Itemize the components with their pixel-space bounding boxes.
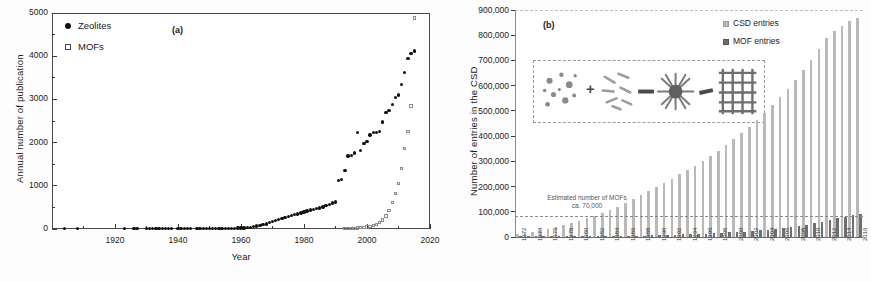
panel-b-bar-mof	[527, 236, 530, 237]
panel-a-y-tickmark	[52, 99, 57, 100]
panel-b-annotation: Estimated number of MOFs ca. 70,000	[527, 194, 647, 212]
panel-a-x-tickmark	[115, 224, 116, 229]
panel-b-bar-csd	[756, 120, 759, 237]
panel-a-legend-mofs: MOFs	[65, 41, 104, 52]
panel-a-mofs-point	[387, 209, 390, 212]
panel-a-legend-zeolites: Zeolites	[65, 20, 111, 31]
panel-b-bar-csd	[725, 145, 728, 237]
panel-b-bar-csd	[810, 60, 813, 237]
panel-b-x-tick-label: 2014	[846, 228, 852, 241]
panel-a-mofs-point	[397, 182, 400, 185]
metal-nodes-icon	[543, 73, 577, 107]
panel-b-y-tick-label: 200,000	[453, 182, 509, 192]
panel-a: Annual number of publication (a) Zeolite…	[0, 0, 440, 281]
panel-b-y-tick-label: 500,000	[453, 106, 509, 116]
panel-a-x-tickmark	[304, 224, 305, 229]
panel-a-mofs-point	[391, 201, 394, 204]
panel-b-bar-csd	[848, 21, 851, 237]
panel-a-zeolites-point	[189, 227, 192, 230]
panel-b-x-tick-label: 2016	[862, 228, 868, 241]
plus-sign-icon: +	[586, 82, 595, 98]
panel-a-mofs-point	[409, 104, 412, 107]
panel-b-bar-csd	[593, 216, 596, 237]
panel-a-x-tick-label: 1960	[223, 235, 259, 245]
panel-a-x-tick-label: 1980	[286, 235, 322, 245]
panel-a-legend-zeolites-label: Zeolites	[78, 20, 111, 31]
panel-b-bar-csd	[624, 203, 627, 237]
panel-b-estimated-mofs-line	[515, 216, 863, 217]
panel-b-x-tick-label: 1986	[630, 228, 636, 241]
mof-assembly-schematic-svg: +	[534, 61, 764, 122]
panel-a-mofs-point	[394, 192, 397, 195]
panel-b-legend-csd: CSD entries	[723, 18, 779, 28]
sbu-cluster-icon	[658, 74, 693, 109]
panel-a-zeolites-point	[63, 227, 66, 230]
panel-b-x-tick-label: 1984	[614, 228, 620, 241]
panel-b-bar-csd	[732, 139, 735, 237]
panel-a-mofs-point	[413, 16, 416, 19]
organic-linkers-icon	[603, 74, 632, 109]
panel-b-bar-csd	[771, 105, 774, 237]
panel-a-zeolites-point	[334, 200, 337, 203]
panel-b-annotation-line1: Estimated number of MOFs	[527, 194, 647, 203]
panel-a-zeolites-point	[135, 227, 138, 230]
mof-assembly-schematic-inset: +	[533, 60, 765, 123]
panel-b-bar-csd	[717, 151, 720, 238]
panel-b-bar-csd	[802, 70, 805, 237]
reaction-arrow-2-icon	[699, 89, 713, 96]
panel-b-bar-csd	[531, 232, 534, 237]
panel-a-y-tickmark	[52, 229, 57, 230]
panel-b-bar-csd	[856, 18, 859, 237]
panel-a-zeolites-point	[353, 151, 356, 154]
panel-b-bar-csd	[671, 179, 674, 238]
panel-b-x-tick-label: 2004	[769, 228, 775, 241]
panel-a-y-axis-label: Annual number of publication	[14, 54, 25, 183]
panel-a-x-tick-label: 2000	[349, 235, 385, 245]
panel-a-plot-area	[52, 13, 430, 229]
panel-b-bar-csd	[609, 210, 612, 237]
panel-a-y-tickmark	[52, 56, 57, 57]
panel-a-x-minor-tickmark	[335, 226, 336, 229]
panel-a-y-tick-label: 4000	[10, 50, 48, 60]
panel-b-y-tick-label: 0	[453, 232, 509, 242]
panel-b-x-tick-label: 2008	[800, 228, 806, 241]
panel-b-legend-mof-label: MOF entries	[733, 36, 780, 46]
panel-b-bar-csd	[516, 234, 519, 237]
panel-a-y-minor-tickmark	[52, 34, 55, 35]
panel-a-mofs-point	[384, 214, 387, 217]
panel-a-y-tickmark	[52, 185, 57, 186]
panel-a-x-minor-tickmark	[83, 226, 84, 229]
panel-a-zeolites-point	[343, 169, 346, 172]
panel-b-bar-csd	[709, 156, 712, 237]
panel-b-legend-mof: MOF entries	[723, 36, 780, 46]
panel-a-x-minor-tickmark	[272, 226, 273, 229]
panel-b-bar-mof	[620, 236, 623, 237]
panel-b-x-tick-label: 2002	[753, 228, 759, 241]
panel-b-bar-csd	[748, 127, 751, 237]
panel-b-bar-mof	[651, 235, 654, 237]
panel-b-bar-csd	[841, 26, 844, 237]
panel-b-y-tick-label: 700,000	[453, 55, 509, 65]
panel-b-x-tick-label: 1976	[552, 228, 558, 241]
panel-b-y-tick-label: 600,000	[453, 81, 509, 91]
panel-b-y-tickmark	[511, 186, 515, 187]
panel-b-bar-csd	[825, 38, 828, 237]
panel-b-y-tick-label: 100,000	[453, 207, 509, 217]
panel-b-x-tick-label: 2006	[784, 228, 790, 241]
csd-swatch-icon	[723, 21, 729, 27]
panel-b-top-gridline	[515, 10, 863, 11]
panel-b-x-tick-label: 1996	[707, 228, 713, 241]
panel-b-bar-csd	[833, 31, 836, 237]
panel-b-x-tick-label: 2010	[815, 228, 821, 241]
panel-b-x-tick-label: 2012	[831, 228, 837, 241]
panel-b-bar-csd	[686, 170, 689, 237]
panel-b-bar-csd	[818, 49, 821, 237]
panel-b-bar-csd	[763, 113, 766, 237]
panel-a-x-tick-label: 1920	[97, 235, 133, 245]
panel-a-y-minor-tickmark	[52, 207, 55, 208]
panel-b-x-tick-label: 1998	[722, 228, 728, 241]
panel-b-y-tick-label: 900,000	[453, 5, 509, 15]
panel-b-bar-csd	[578, 221, 581, 237]
panel-b-bar-mof	[589, 236, 592, 237]
panel-b-legend-csd-label: CSD entries	[733, 18, 779, 28]
